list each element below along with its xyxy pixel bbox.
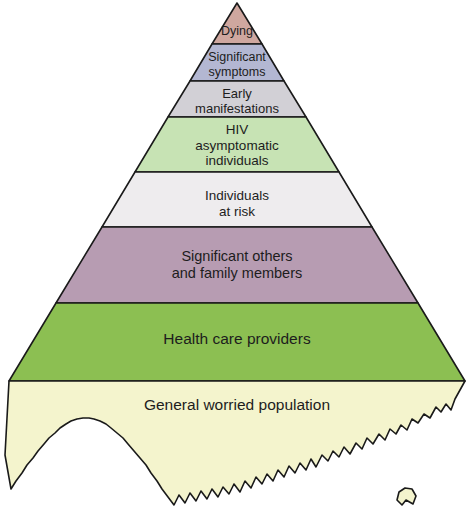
tier-shape-hiv-asymptomatic-individuals [135,117,339,172]
pyramid-figure: Dying Significant symptoms Early manifes… [0,0,473,517]
tier-shape-individuals-at-risk [102,172,372,227]
pyramid-graphic [0,0,473,517]
torn-fragment [397,488,416,505]
tier-shape-dying [212,3,262,44]
tier-shape-early-manifestations [168,81,306,117]
tier-shape-general-worried-population [5,381,465,505]
bottom-caption-clipped [0,506,473,517]
tier-shape-health-care-providers [9,303,465,381]
tier-shape-significant-symptoms [190,44,284,81]
tier-shape-significant-others-and-family-members [56,227,418,303]
